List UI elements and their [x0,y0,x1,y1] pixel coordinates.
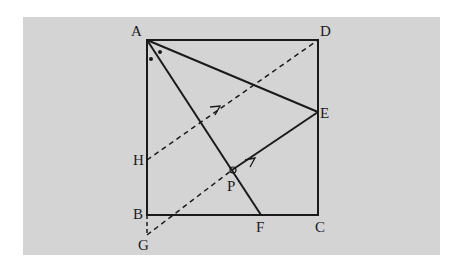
label-f: F [256,219,264,235]
parallel-arrow-icon [210,106,220,115]
angle-mark-dot-icon [158,50,162,54]
parallel-arrow-icon [245,158,255,167]
segment-hd-dashed [147,40,318,160]
segment-af [147,40,261,215]
label-b: B [133,206,143,222]
geometry-figure: A D E H B F C G P [0,0,463,269]
label-e: E [320,105,329,121]
label-p: P [227,178,235,194]
label-g: G [138,237,149,253]
label-a: A [131,23,142,39]
angle-mark-dot-icon [149,57,153,61]
label-d: D [320,23,331,39]
label-h: H [133,152,144,168]
label-c: C [315,219,325,235]
segment-ae [147,40,318,112]
segment-pe [232,112,318,170]
segment-gp-dashed [147,170,232,235]
